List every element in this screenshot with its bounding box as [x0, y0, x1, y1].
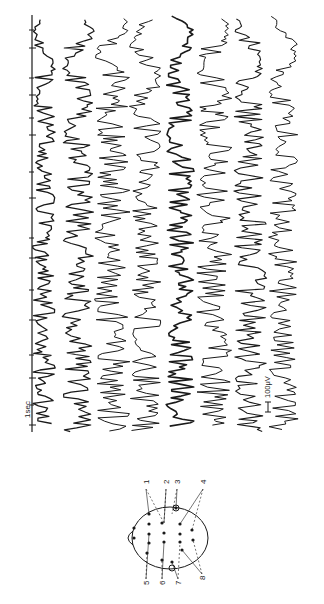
- eeg-trace-4: [129, 20, 161, 431]
- eeg-trace-3: [95, 19, 130, 431]
- eeg-trace-2: [62, 20, 94, 432]
- electrode-dot: [132, 526, 135, 529]
- eeg-traces: [33, 16, 298, 432]
- amplitude-calibration: 100μV: [263, 376, 272, 412]
- electrode-dot: [132, 536, 135, 539]
- amplitude-scale-label: 100μV: [263, 376, 272, 398]
- electrode-dot: [147, 522, 150, 525]
- electrode-label-3: 3: [173, 479, 182, 484]
- electrode-label-6: 6: [158, 580, 167, 585]
- eeg-trace-1: [33, 20, 55, 424]
- electrode-dot: [147, 541, 150, 544]
- electrode-label-4: 4: [199, 479, 208, 484]
- electrode-dot: [178, 532, 181, 535]
- electrode-label-7: 7: [174, 580, 183, 585]
- time-scale-label: 1sec: [23, 401, 32, 418]
- eeg-figure: 1sec 100μV 12345678: [0, 0, 324, 604]
- electrode-head-diagram: 12345678: [128, 479, 208, 585]
- eeg-trace-5: [166, 16, 194, 426]
- eeg-trace-8: [269, 16, 299, 429]
- electrode-label-1: 1: [142, 479, 151, 484]
- head-outline: [132, 507, 208, 569]
- electrode-label-2: 2: [162, 479, 171, 484]
- eeg-trace-7: [234, 19, 267, 431]
- electrode-dot: [162, 531, 165, 534]
- electrode-label-5: 5: [142, 580, 151, 585]
- electrode-label-8: 8: [198, 575, 207, 580]
- eeg-trace-6: [197, 19, 232, 425]
